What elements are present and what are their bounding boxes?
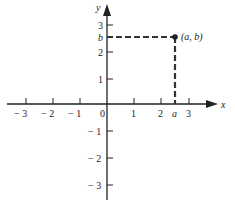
x-tick-label-a: a bbox=[172, 108, 177, 119]
y-tick-label: − 3 bbox=[88, 180, 101, 191]
y-axis-arrow-icon bbox=[103, 4, 111, 16]
x-tick-label: − 2 bbox=[41, 108, 54, 119]
x-tick-label: − 1 bbox=[68, 108, 81, 119]
y-tick-label-b: b bbox=[98, 32, 103, 43]
y-axis-label: y bbox=[95, 2, 101, 13]
y-tick-label: − 2 bbox=[88, 153, 101, 164]
coordinate-plane: x y − 3 − 2 − 1 0 1 2 a 3 3 b 2 1 − 1 − … bbox=[0, 0, 235, 208]
x-tick-label: 0 bbox=[100, 108, 105, 119]
point-ab-label: (a, b) bbox=[181, 31, 203, 43]
y-tick-label: − 1 bbox=[88, 126, 101, 137]
x-axis-arrow-icon bbox=[206, 100, 218, 108]
y-tick-label: 3 bbox=[98, 20, 103, 31]
x-axis-label: x bbox=[220, 99, 226, 110]
x-tick-label: 2 bbox=[158, 108, 163, 119]
x-tick-label: 3 bbox=[186, 108, 191, 119]
x-tick-label: − 3 bbox=[14, 108, 27, 119]
y-tick-label: 2 bbox=[98, 47, 103, 58]
point-ab bbox=[172, 34, 178, 40]
x-tick-label: 1 bbox=[131, 108, 136, 119]
y-ticks bbox=[107, 25, 113, 185]
y-tick-label: 1 bbox=[98, 74, 103, 85]
